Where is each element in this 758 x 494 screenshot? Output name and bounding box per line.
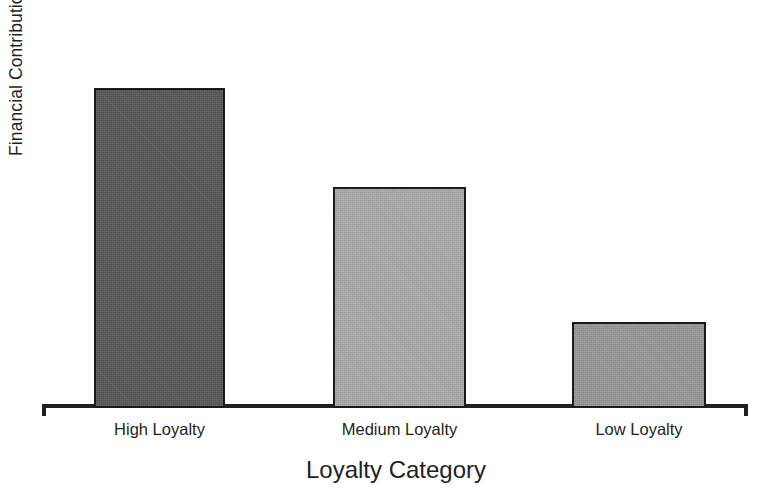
x-axis-left-end-tick: [42, 404, 46, 416]
bar-high-loyalty: [94, 88, 225, 408]
y-axis-title-text: Financial Contributions by Customers: [8, 0, 26, 156]
bar-low-loyalty: [572, 322, 706, 408]
x-axis-label-low-loyalty: Low Loyalty: [512, 421, 758, 438]
bar-medium-loyalty: [333, 187, 466, 408]
x-axis-label-medium-loyalty: Medium Loyalty: [273, 421, 526, 438]
x-axis-right-end-tick: [744, 404, 748, 416]
bar-chart: Financial Contributions by Customers Hig…: [0, 0, 758, 494]
x-axis-label-high-loyalty: High Loyalty: [34, 421, 285, 438]
y-axis-title: Financial Contributions by Customers: [0, 0, 34, 412]
x-axis-title: Loyalty Category: [34, 458, 758, 482]
plot-area: High Loyalty Medium Loyalty Low Loyalty: [34, 0, 758, 412]
